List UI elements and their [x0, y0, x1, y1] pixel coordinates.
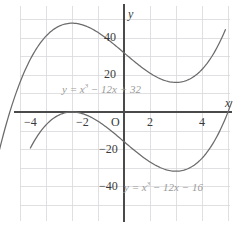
plot-canvas	[0, 0, 242, 227]
axis-lines	[14, 4, 232, 222]
curve-upper-cubic	[0, 23, 225, 156]
graph-figure: −4 −2 2 4 O 40 20 −20 −40 y x y = x3 − 1…	[0, 0, 242, 227]
